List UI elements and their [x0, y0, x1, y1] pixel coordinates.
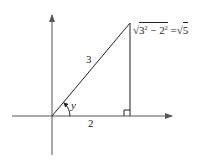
- expr-result: 5: [183, 22, 189, 36]
- adjacent-label: 2: [88, 118, 94, 129]
- expr-minus: −: [148, 24, 160, 36]
- angle-arc: [64, 103, 70, 116]
- hypotenuse-label: 3: [86, 54, 92, 65]
- right-angle-marker: [124, 110, 130, 116]
- expr-equals: =: [168, 24, 177, 36]
- hypotenuse-side: [52, 23, 130, 116]
- angle-label: y: [71, 100, 76, 111]
- opposite-expression: √32 − 22 =√5: [133, 25, 188, 36]
- sqrt-symbol-2: √: [177, 24, 183, 36]
